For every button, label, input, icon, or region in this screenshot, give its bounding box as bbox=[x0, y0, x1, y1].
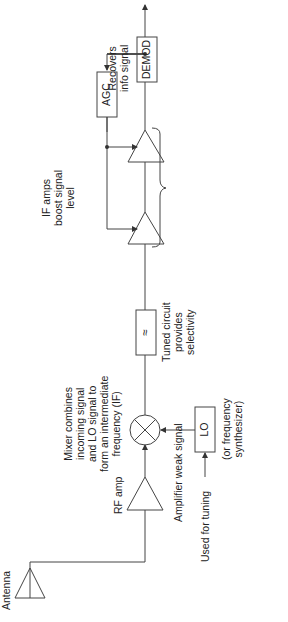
lo-note-line: synthesizer) bbox=[232, 398, 244, 460]
if-note-line: level bbox=[64, 170, 76, 226]
tuning-note: Used for tuning bbox=[199, 491, 211, 562]
if-amp-2-icon bbox=[128, 130, 164, 162]
if-amps-note: IF amps boost signal level bbox=[40, 170, 76, 226]
rf-amp-note: Amplifier weak signal bbox=[172, 423, 184, 522]
mixer-note-line: form an intermediate bbox=[98, 376, 110, 472]
lo-note: (or frequency synthesizer) bbox=[220, 398, 244, 460]
rf-amp-icon bbox=[127, 477, 163, 510]
mixer-note-line: Mixer combines bbox=[62, 376, 74, 472]
receiver-diagram: Antenna RF amp Amplifier weak signal Mix… bbox=[0, 0, 288, 622]
demod-note-line: info signal bbox=[118, 45, 130, 92]
lo-label: LO bbox=[198, 407, 210, 452]
demod-note: Recovers info signal bbox=[106, 45, 130, 92]
demod-note-line: Recovers bbox=[106, 45, 118, 92]
tuned-circuit-note: Tuned circuit provides selectivity bbox=[160, 302, 196, 362]
mixer-note-line: incoming signal bbox=[74, 376, 86, 472]
if-amp-1-icon bbox=[128, 212, 164, 244]
demod-label: DEMOD bbox=[140, 37, 152, 82]
mixer-note: Mixer combines incoming signal and LO si… bbox=[62, 376, 122, 472]
if-note-line: boost signal bbox=[52, 170, 64, 226]
lo-note-line: (or frequency bbox=[220, 398, 232, 460]
tuned-note-line: Tuned circuit bbox=[160, 302, 172, 362]
if-note-line: IF amps bbox=[40, 170, 52, 226]
mixer-note-line: and LO signal to bbox=[86, 376, 98, 472]
tuned-circuit-symbol: ≈ bbox=[138, 310, 152, 355]
rf-amp-label: RF amp bbox=[112, 477, 124, 514]
antenna-label: Antenna bbox=[0, 571, 12, 610]
mixer-note-line: frequency (IF) bbox=[110, 376, 122, 472]
tuned-note-line: provides bbox=[172, 302, 184, 362]
tuned-note-line: selectivity bbox=[184, 302, 196, 362]
